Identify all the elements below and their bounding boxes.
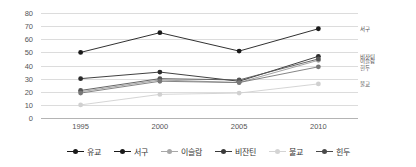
legend-label: 유교 [87, 146, 101, 157]
legend-label: 힌두 [336, 146, 350, 157]
data-point [237, 91, 242, 96]
series-end-labels: 서구비잔틴이슬람힌두불교 [358, 13, 416, 118]
data-point [78, 102, 83, 107]
x-axis-tick: 1995 [72, 122, 89, 131]
x-axis-line [41, 118, 358, 119]
y-axis-tick: 70 [25, 22, 33, 31]
line-chart: 01020304050607080 1995200020052010 서구비잔틴… [0, 0, 416, 167]
y-axis-tick: 40 [25, 61, 33, 70]
legend-marker-icon [67, 147, 84, 155]
x-axis-tick: 2010 [310, 122, 327, 131]
data-point [157, 70, 162, 75]
y-axis-tick: 50 [25, 48, 33, 57]
y-axis-tick: 10 [25, 100, 33, 109]
legend-marker-icon [215, 147, 232, 155]
x-axis-tick: 2000 [152, 122, 169, 131]
chart-legend: 유교서구이슬람비잔틴불교힌두 [0, 142, 416, 160]
series-line [81, 59, 319, 91]
legend-marker-icon [269, 147, 286, 155]
series-end-label: 서구 [360, 26, 370, 32]
legend-label: 서구 [134, 146, 148, 157]
data-point [316, 64, 321, 69]
legend-label: 이슬람 [181, 146, 202, 157]
data-point [78, 76, 83, 81]
legend-marker-icon [114, 147, 131, 155]
legend-item-서구[interactable]: 서구 [114, 146, 148, 157]
legend-item-힌두[interactable]: 힌두 [316, 146, 350, 157]
series-layer [41, 13, 358, 118]
y-axis-tick: 20 [25, 87, 33, 96]
legend-label: 불교 [289, 146, 303, 157]
plot-area [41, 13, 358, 118]
y-axis-tick: 60 [25, 35, 33, 44]
legend-item-이슬람[interactable]: 이슬람 [161, 146, 202, 157]
y-axis-tick: 0 [29, 114, 33, 123]
data-point [316, 57, 321, 62]
data-point [316, 26, 321, 31]
x-axis-tick: 2005 [231, 122, 248, 131]
x-axis-labels: 1995200020052010 [41, 122, 358, 136]
series-end-label: 힌두 [360, 65, 370, 71]
data-point [78, 91, 83, 96]
data-point [157, 92, 162, 97]
y-axis-tick: 80 [25, 9, 33, 18]
data-point [316, 81, 321, 86]
data-point [237, 80, 242, 85]
series-end-label: 불교 [360, 81, 370, 87]
series-end-label: 이슬람 [360, 58, 375, 64]
y-axis-tick: 30 [25, 74, 33, 83]
y-axis-labels: 01020304050607080 [0, 13, 36, 118]
legend-item-비잔틴[interactable]: 비잔틴 [215, 146, 256, 157]
legend-label: 비잔틴 [235, 146, 256, 157]
legend-marker-icon [316, 147, 333, 155]
data-point [157, 79, 162, 84]
series-line [81, 84, 319, 105]
data-point [78, 50, 83, 55]
legend-marker-icon [161, 147, 178, 155]
data-point [157, 30, 162, 35]
legend-item-불교[interactable]: 불교 [269, 146, 303, 157]
series-line [81, 29, 319, 53]
legend-item-유교[interactable]: 유교 [67, 146, 101, 157]
data-point [237, 49, 242, 54]
